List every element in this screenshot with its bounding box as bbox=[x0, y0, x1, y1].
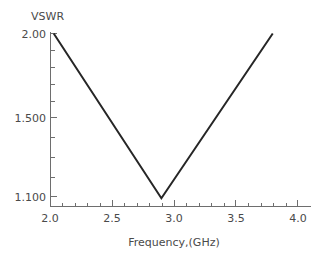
x-tick-label-4-0: 4.0 bbox=[289, 212, 307, 225]
y-tick-label-1-100: 1.100 bbox=[15, 191, 47, 204]
y-tick-label-2-00: 2.00 bbox=[22, 28, 47, 41]
x-tick-label-2-5: 2.5 bbox=[103, 212, 121, 225]
x-axis-title: Frequency,(GHz) bbox=[128, 236, 219, 249]
y-tick-label-1-500: 1.500 bbox=[15, 112, 47, 125]
x-tick-label-3-0: 3.0 bbox=[165, 212, 183, 225]
y-axis-title: VSWR bbox=[31, 10, 64, 23]
y-axis-major-ticks bbox=[51, 34, 58, 197]
vswr-curve bbox=[54, 34, 273, 199]
y-axis-minor-ticks bbox=[51, 51, 55, 178]
chart-figure: VSWR 2.00 1.500 1.100 bbox=[0, 0, 323, 258]
x-tick-label-2-0: 2.0 bbox=[41, 212, 59, 225]
vswr-line-chart: VSWR 2.00 1.500 1.100 bbox=[0, 0, 323, 258]
x-tick-label-3-5: 3.5 bbox=[227, 212, 245, 225]
